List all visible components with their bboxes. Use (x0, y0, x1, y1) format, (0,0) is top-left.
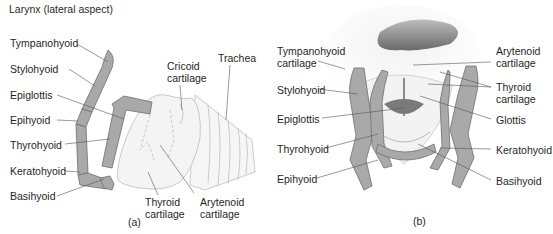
caption-b: (b) (413, 215, 426, 227)
label-b-arytenoid-line1: Arytenoid (496, 45, 540, 57)
label-a-keratohyoid: Keratohyoid (10, 165, 66, 177)
label-a-cricoid-line2: cartilage (167, 72, 207, 84)
label-a-cricoid-line1: Cricoid (167, 60, 200, 72)
label-b-tympanohyoid-line2: cartilage (277, 57, 317, 69)
label-a-thyrohyoid: Thyrohyoid (10, 139, 62, 151)
label-a-epihyoid: Epihyoid (10, 114, 50, 126)
tympanohyoid-stylohyoid-bone (82, 50, 113, 112)
panel-a-drawing (76, 50, 255, 190)
label-a-basihyoid: Basihyoid (10, 190, 56, 202)
trachea-shape (190, 95, 255, 190)
epihyoid-joint (76, 109, 92, 127)
label-b-keratohyoid: Keratohyoid (496, 144, 552, 156)
label-b-stylohyoid: Stylohyoid (277, 84, 325, 96)
epihyoid-bone (76, 124, 88, 175)
label-b-epihyoid: Epihyoid (277, 173, 317, 185)
label-a-epiglottis: Epiglottis (10, 89, 53, 101)
label-a-tympanohyoid: Tympanohyoid (10, 37, 78, 49)
label-b-glottis: Glottis (496, 114, 526, 126)
caption-a: (a) (128, 216, 141, 228)
label-a-trachea: Trachea (218, 52, 256, 64)
label-a-arytenoid-line1: Arytenoid (200, 196, 244, 208)
label-a-thyroid-line2: cartilage (145, 208, 185, 220)
label-b-tympanohyoid-line1: Tympanohyoid (277, 45, 345, 57)
label-a-stylohyoid: Stylohyoid (10, 63, 58, 75)
panel-b-drawing (324, 5, 480, 190)
label-b-epiglottis: Epiglottis (277, 113, 320, 125)
label-b-basihyoid: Basihyoid (496, 175, 542, 187)
label-a-thyroid-line1: Thyroid (145, 196, 180, 208)
label-b-arytenoid-line2: cartilage (496, 57, 536, 69)
label-b-thyrohyoid: Thyrohyoid (277, 143, 329, 155)
label-b-thyroid-line2: cartilage (496, 93, 536, 105)
label-b-thyroid-line1: Thyroid (496, 81, 531, 93)
label-a-arytenoid-line2: cartilage (200, 208, 240, 220)
